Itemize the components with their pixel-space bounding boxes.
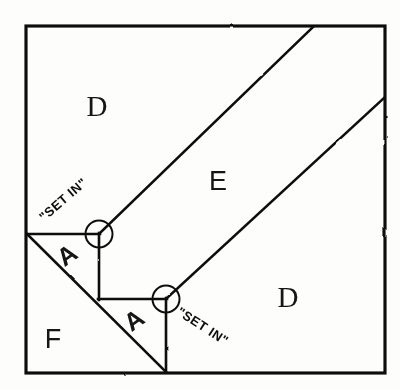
band-e-lower-diagonal bbox=[166, 98, 384, 299]
diagram-canvas: D E D F A A "SET IN" "SET IN" bbox=[0, 0, 400, 390]
region-label-e-band: E bbox=[209, 166, 227, 196]
region-label-f: F bbox=[45, 324, 62, 354]
band-e-upper-diagonal bbox=[99, 27, 313, 234]
region-label-d-right: D bbox=[278, 281, 299, 313]
set-in-seam-figure: D E D F A A "SET IN" "SET IN" bbox=[0, 0, 400, 390]
region-label-a-upper: A bbox=[51, 238, 82, 271]
region-label-a-lower: A bbox=[118, 303, 149, 336]
set-in-callout-lower: "SET IN" bbox=[174, 304, 231, 348]
set-in-callout-upper: "SET IN" bbox=[36, 175, 90, 225]
region-label-d-top: D bbox=[87, 90, 108, 122]
